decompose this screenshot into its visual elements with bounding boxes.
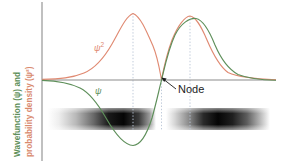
plot-canvas: [0, 0, 293, 164]
electron-density-band: [48, 108, 270, 130]
curve-label-psi: ψ: [95, 86, 102, 96]
wavefunction-figure: Wavefunction (ψ) and probability density…: [0, 0, 293, 164]
psi-squared-curve: [42, 14, 276, 80]
axes: [42, 2, 276, 161]
curve-label-psi-squared-exponent: 2: [101, 41, 105, 48]
node-arrow: [161, 78, 176, 89]
y-axis-label-probability-density: probability density (ψ²): [25, 66, 34, 157]
node-label: Node: [178, 83, 204, 95]
curve-label-psi-squared: ψ2: [94, 41, 104, 53]
y-axis-label-wavefunction: Wavefunction (ψ) and: [13, 72, 22, 157]
y-axis-label-group: Wavefunction (ψ) and probability density…: [0, 0, 40, 164]
